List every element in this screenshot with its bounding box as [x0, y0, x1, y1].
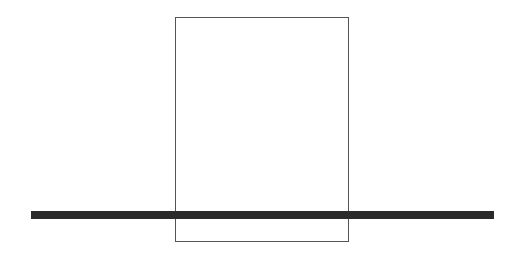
thick-horizontal-line [31, 211, 494, 219]
outlined-rectangle [175, 17, 349, 242]
